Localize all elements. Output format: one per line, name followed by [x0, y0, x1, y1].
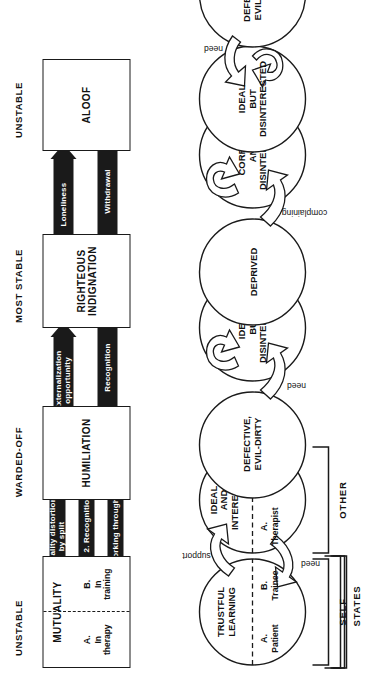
arrow-recognition-2-shaft: Recognition: [97, 322, 117, 413]
state-box-humiliation-title: HUMILIATION: [80, 418, 92, 487]
row-label-states: STATES: [350, 566, 361, 646]
state-box-mutuality[interactable]: MUTUALITY A. In therapy B. In training: [42, 556, 130, 668]
arrow-externalization-opportunity-label: Externalization opportunity: [54, 351, 71, 411]
row-label-other: OTHER: [336, 470, 347, 530]
state-box-humiliation[interactable]: HUMILIATION: [42, 406, 130, 500]
state-box-righteous-indignation-title: RIGHTEOUS INDIGNATION: [75, 246, 98, 316]
bracket-other: [312, 447, 328, 553]
state-box-mutuality-half-b: B. In training: [43, 557, 129, 612]
mutuality-a-letter: A.: [81, 635, 91, 644]
state-box-righteous-indignation[interactable]: RIGHTEOUS INDIGNATION: [42, 234, 130, 328]
arrow-withdrawal-shaft: Withdrawal: [97, 144, 117, 239]
arrow-recognition-2-label: Recognition: [103, 343, 112, 391]
state-box-aloof-title: ALOOF: [80, 87, 92, 124]
arrow-loneliness-label: Loneliness: [59, 183, 68, 227]
diagram-canvas: UNSTABLE WARDED-OFF MOST STABLE UNSTABLE…: [0, 0, 385, 696]
row-label-self: SELF: [336, 582, 347, 642]
state-box-aloof[interactable]: ALOOF: [42, 59, 130, 151]
bracket-self: [312, 559, 328, 665]
arrow-withdrawal-label: Withdrawal: [103, 169, 112, 214]
mutuality-b-text: In training: [93, 569, 112, 600]
mutuality-a-text: In therapy: [93, 624, 112, 655]
arrow-recognition-1-label: 2. Recognition: [82, 495, 91, 553]
state-box-mutuality-half-a: A. In therapy: [43, 612, 129, 668]
mutuality-b-letter: B.: [81, 580, 91, 589]
